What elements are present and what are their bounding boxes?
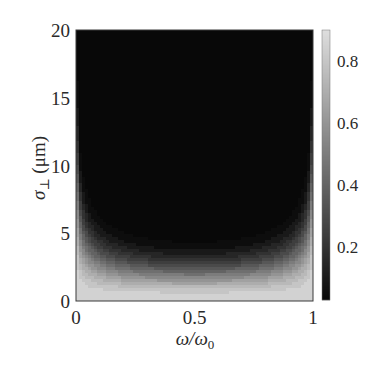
heatmap-cell [304, 159, 307, 162]
heatmap-cell [238, 60, 241, 63]
heatmap-cell [214, 243, 217, 246]
heatmap-cell [178, 114, 181, 117]
heatmap-cell [292, 63, 295, 66]
heatmap-cell [130, 171, 133, 174]
heatmap-cell [148, 150, 151, 153]
heatmap-cell [106, 201, 109, 204]
heatmap-cell [292, 240, 295, 243]
heatmap-cell [289, 285, 292, 288]
heatmap-cell [301, 117, 304, 120]
heatmap-cell [220, 180, 223, 183]
heatmap-cell [88, 264, 91, 267]
heatmap-cell [199, 90, 202, 93]
heatmap-cell [142, 264, 145, 267]
heatmap-cell [229, 33, 232, 36]
heatmap-cell [91, 54, 94, 57]
heatmap-cell [268, 84, 271, 87]
heatmap-cell [217, 90, 220, 93]
heatmap-cell [271, 249, 274, 252]
heatmap-cell [193, 150, 196, 153]
heatmap-cell [304, 135, 307, 138]
heatmap-cell [118, 111, 121, 114]
heatmap-cell [130, 129, 133, 132]
heatmap-cell [163, 69, 166, 72]
heatmap-cell [214, 270, 217, 273]
heatmap-cell [151, 135, 154, 138]
heatmap-cell [256, 252, 259, 255]
heatmap-cell [160, 114, 163, 117]
heatmap-cell [223, 267, 226, 270]
heatmap-cell [139, 210, 142, 213]
heatmap-cell [85, 138, 88, 141]
heatmap-cell [148, 159, 151, 162]
heatmap-cell [91, 201, 94, 204]
heatmap-cell [148, 285, 151, 288]
heatmap-cell [295, 177, 298, 180]
heatmap-cell [223, 150, 226, 153]
heatmap-cell [235, 138, 238, 141]
heatmap-cell [172, 261, 175, 264]
heatmap-cell [166, 201, 169, 204]
heatmap-cell [205, 294, 208, 297]
heatmap-cell [136, 165, 139, 168]
heatmap-cell [208, 267, 211, 270]
heatmap-cell [154, 183, 157, 186]
heatmap-cell [106, 231, 109, 234]
heatmap-cell [178, 144, 181, 147]
heatmap-cell [301, 297, 304, 300]
heatmap-cell [259, 84, 262, 87]
heatmap-cell [133, 204, 136, 207]
heatmap-cell [250, 249, 253, 252]
heatmap-cell [136, 153, 139, 156]
heatmap-cell [151, 174, 154, 177]
heatmap-cell [94, 198, 97, 201]
heatmap-cell [85, 219, 88, 222]
heatmap-cell [121, 261, 124, 264]
heatmap-cell [166, 42, 169, 45]
heatmap-cell [82, 186, 85, 189]
heatmap-cell [307, 222, 310, 225]
heatmap-cell [94, 288, 97, 291]
heatmap-cell [94, 273, 97, 276]
heatmap-cell [295, 99, 298, 102]
heatmap-cell [217, 270, 220, 273]
heatmap-cell [97, 285, 100, 288]
heatmap-cell [154, 45, 157, 48]
heatmap-cell [274, 51, 277, 54]
heatmap-cell [298, 279, 301, 282]
heatmap-cell [121, 120, 124, 123]
heatmap-cell [163, 204, 166, 207]
heatmap-cell [97, 81, 100, 84]
heatmap-cell [283, 216, 286, 219]
heatmap-cell [247, 108, 250, 111]
heatmap-cell [238, 126, 241, 129]
heatmap-cell [268, 243, 271, 246]
heatmap-cell [214, 39, 217, 42]
heatmap-cell [160, 117, 163, 120]
heatmap-cell [103, 270, 106, 273]
heatmap-cell [223, 204, 226, 207]
heatmap-cell [214, 105, 217, 108]
heatmap-cell [208, 66, 211, 69]
heatmap-cell [79, 216, 82, 219]
heatmap-cell [235, 93, 238, 96]
heatmap-cell [79, 36, 82, 39]
heatmap-cell [109, 267, 112, 270]
heatmap-cell [106, 243, 109, 246]
heatmap-cell [142, 174, 145, 177]
heatmap-cell [259, 279, 262, 282]
heatmap-cell [241, 54, 244, 57]
heatmap-cell [202, 162, 205, 165]
heatmap-cell [178, 279, 181, 282]
heatmap-cell [214, 198, 217, 201]
heatmap-cell [88, 87, 91, 90]
heatmap-cell [181, 204, 184, 207]
heatmap-cell [262, 48, 265, 51]
heatmap-cell [118, 63, 121, 66]
heatmap-cell [286, 207, 289, 210]
heatmap-cell [280, 72, 283, 75]
heatmap-cell [160, 126, 163, 129]
heatmap-cell [259, 246, 262, 249]
heatmap-cell [223, 189, 226, 192]
heatmap-cell [145, 264, 148, 267]
